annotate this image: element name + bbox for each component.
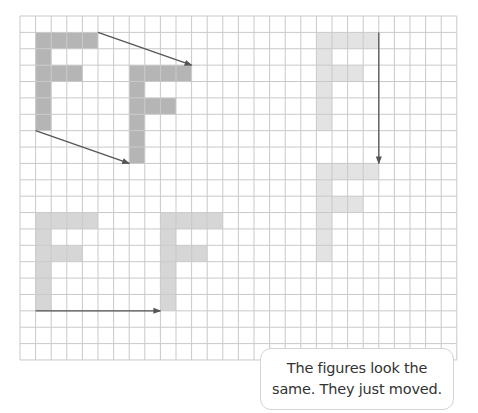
grid-lines — [20, 16, 457, 360]
speech-bubble: The figures look the same. They just mov… — [260, 348, 454, 410]
bubble-text-line-2: same. They just moved. — [272, 379, 442, 400]
bubble-text-line-1: The figures look the — [287, 358, 427, 379]
